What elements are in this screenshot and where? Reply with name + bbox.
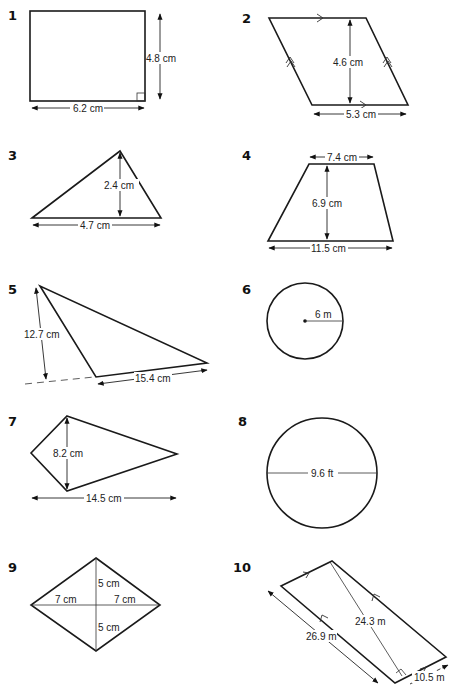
top-label: 7.4 cm (327, 152, 357, 163)
problem-number: 3 (8, 148, 17, 163)
problem-number: 9 (8, 560, 17, 575)
width-label: 6.2 cm (73, 103, 103, 114)
problem-number: 2 (242, 11, 251, 26)
half-horizontal-left-label: 7 cm (55, 594, 77, 605)
problem-7: 7 8.2 cm 14.5 cm (8, 414, 177, 504)
base-label: 4.7 cm (80, 220, 110, 231)
problem-number: 7 (8, 414, 17, 429)
problem-number: 5 (8, 282, 17, 297)
worksheet-canvas: 1 4.8 cm 6.2 cm 2 4.6 cm 5.3 cm 3 2.4 cm… (0, 0, 451, 685)
height-label: 24.3 m (355, 616, 386, 627)
half-horizontal-right-label: 7 cm (114, 594, 136, 605)
obtuse-triangle-shape (40, 286, 207, 377)
height-label: 6.9 cm (312, 198, 342, 209)
problem-5: 5 12.7 cm 15.4 cm (8, 282, 207, 384)
height-label: 4.6 cm (333, 57, 363, 68)
problem-3: 3 2.4 cm 4.7 cm (8, 148, 161, 231)
problem-2: 2 4.6 cm 5.3 cm (242, 11, 408, 120)
base-label: 15.4 cm (135, 373, 171, 384)
short-diagonal-label: 8.2 cm (53, 448, 83, 459)
problem-8: 8 9.6 ft (238, 414, 377, 528)
problem-number: 1 (8, 8, 17, 23)
base-label: 5.3 cm (346, 109, 376, 120)
side-label: 26.9 m (306, 631, 337, 642)
long-diagonal-label: 14.5 cm (86, 493, 122, 504)
extended-base-dashed-line (25, 377, 94, 384)
rhombus-shape (31, 558, 160, 651)
height-label: 4.8 cm (146, 53, 176, 64)
problem-6: 6 6 m (242, 282, 343, 359)
problem-9: 9 7 cm 7 cm 5 cm 5 cm (8, 558, 160, 651)
half-vertical-top-label: 5 cm (98, 578, 120, 589)
rectangle-shape (30, 11, 145, 101)
problem-10: 10 26.9 m 24.3 m 10.5 m (233, 560, 448, 684)
half-vertical-bottom-label: 5 cm (98, 622, 120, 633)
right-angle-marker (137, 93, 145, 101)
diameter-label: 9.6 ft (311, 468, 333, 479)
bottom-label: 11.5 cm (311, 243, 346, 254)
problem-number: 6 (242, 282, 251, 297)
problem-number: 10 (233, 560, 251, 575)
base-label: 10.5 m (414, 672, 445, 683)
double-parallel-marker (383, 57, 392, 67)
height-label: 12.7 cm (24, 329, 60, 340)
problem-number: 8 (238, 414, 247, 429)
double-parallel-marker (286, 57, 295, 67)
problem-1: 1 4.8 cm 6.2 cm (8, 8, 176, 114)
problem-number: 4 (242, 148, 251, 163)
radius-label: 6 m (315, 309, 332, 320)
triangle-shape (32, 151, 161, 218)
height-label: 2.4 cm (104, 180, 134, 191)
problem-4: 4 7.4 cm 6.9 cm 11.5 cm (242, 148, 393, 254)
